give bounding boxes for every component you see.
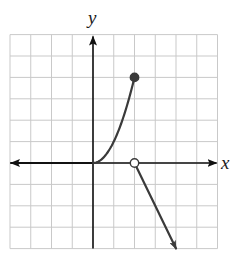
x-axis-label: x (220, 152, 230, 173)
filled-endpoint-dot (130, 73, 138, 81)
y-axis-label: y (86, 7, 97, 28)
open-endpoint-circle (130, 159, 138, 167)
piecewise-function-graph: x y (0, 0, 231, 259)
